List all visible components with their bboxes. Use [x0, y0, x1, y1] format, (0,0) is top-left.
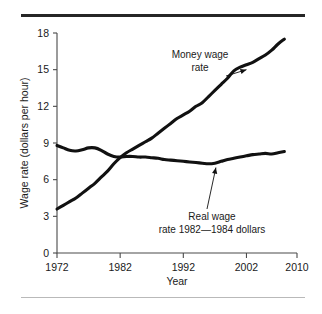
x-tick-label: 1972 — [45, 261, 69, 273]
money-wage-annotation-line: rate — [191, 62, 209, 73]
y-tick-label: 9 — [43, 137, 49, 149]
chart-annotations: Money wagerateReal wagerate 1982—1984 do… — [159, 49, 266, 235]
axis-lines — [57, 33, 297, 253]
x-axis-title: Year — [166, 275, 188, 287]
x-tick-label: 1982 — [108, 261, 132, 273]
x-tick-label: 2010 — [285, 261, 309, 273]
y-tick-label: 15 — [37, 63, 49, 75]
real-wage-annotation-arrowhead — [212, 168, 217, 174]
x-tick-label: 1992 — [172, 261, 196, 273]
y-tick-label: 0 — [43, 247, 49, 259]
y-axis-ticks — [53, 33, 57, 253]
wage-rate-line-chart: 0369121518 19721982199220022010 Year Wag… — [0, 0, 322, 314]
money-wage-annotation-line: Money wage — [172, 49, 229, 60]
real-wage-annotation-line: Real wage — [188, 211, 236, 222]
y-tick-label: 12 — [37, 100, 49, 112]
x-tick-label: 2002 — [235, 261, 259, 273]
y-tick-label: 6 — [43, 173, 49, 185]
series-line — [57, 145, 284, 163]
x-axis-ticks — [57, 253, 297, 258]
y-axis-tick-labels: 0369121518 — [37, 27, 49, 259]
real-wage-annotation-line: rate 1982—1984 dollars — [159, 224, 266, 235]
figure-container: 0369121518 19721982199220022010 Year Wag… — [0, 0, 322, 314]
real-wage-annotation-leader — [207, 168, 216, 209]
x-axis-tick-labels: 19721982199220022010 — [45, 261, 309, 273]
chart-series — [57, 39, 284, 209]
y-axis-title: Wage rate (dollars per hour) — [18, 78, 30, 209]
y-tick-label: 18 — [37, 27, 49, 39]
money-wage-annotation-arrowhead — [240, 69, 247, 74]
y-tick-label: 3 — [43, 210, 49, 222]
series-line — [57, 39, 284, 209]
